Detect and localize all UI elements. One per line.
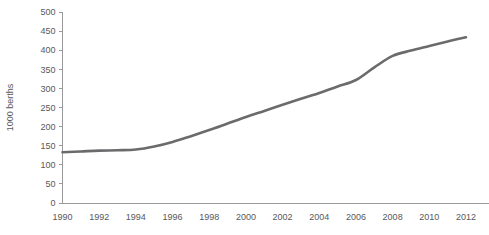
y-tick-label: 350 bbox=[40, 65, 55, 75]
y-tick-label: 400 bbox=[40, 45, 55, 55]
x-axis-ticks: 1990199219941996199820002002200420062008… bbox=[52, 212, 476, 222]
y-tick-label: 500 bbox=[40, 7, 55, 17]
y-tick-label: 150 bbox=[40, 141, 55, 151]
x-tick-label: 1990 bbox=[52, 212, 72, 222]
x-tick-label: 1994 bbox=[126, 212, 146, 222]
y-axis-ticks: 050100150200250300350400450500 bbox=[40, 7, 62, 208]
x-tick-label: 2000 bbox=[236, 212, 256, 222]
series-line bbox=[63, 37, 467, 152]
y-tick-label: 50 bbox=[45, 179, 55, 189]
x-tick-label: 2006 bbox=[346, 212, 366, 222]
x-tick-label: 2002 bbox=[273, 212, 293, 222]
x-tick-label: 2004 bbox=[309, 212, 329, 222]
x-tick-label: 1998 bbox=[199, 212, 219, 222]
x-tick-label: 1992 bbox=[89, 212, 109, 222]
y-tick-label: 100 bbox=[40, 160, 55, 170]
y-tick-label: 250 bbox=[40, 103, 55, 113]
y-tick-label: 300 bbox=[40, 84, 55, 94]
x-tick-label: 1996 bbox=[163, 212, 183, 222]
y-axis-title: 1000 berths bbox=[5, 83, 15, 131]
y-tick-label: 0 bbox=[50, 198, 55, 208]
y-tick-label: 200 bbox=[40, 122, 55, 132]
y-tick-label: 450 bbox=[40, 26, 55, 36]
x-tick-label: 2012 bbox=[456, 212, 476, 222]
chart-canvas: 050100150200250300350400450500 199019921… bbox=[0, 0, 489, 235]
series-group bbox=[63, 37, 467, 152]
x-tick-label: 2010 bbox=[419, 212, 439, 222]
x-tick-label: 2008 bbox=[383, 212, 403, 222]
line-chart: 050100150200250300350400450500 199019921… bbox=[0, 0, 489, 235]
